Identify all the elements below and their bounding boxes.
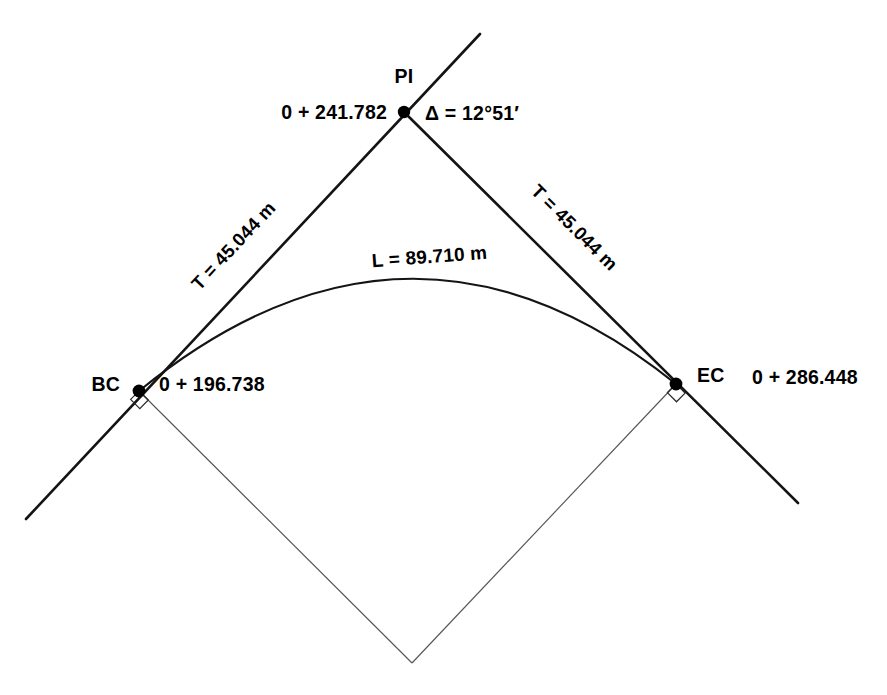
label-tangent-ahead: T = 45.044 m (527, 180, 622, 275)
label-pi-station: 0 + 241.782 (281, 101, 387, 123)
radius-line-bc (139, 391, 412, 663)
horizontal-curve-diagram: PI 0 + 241.782 Δ = 12°51′ BC 0 + 196.738… (0, 0, 887, 695)
label-bc: BC (91, 373, 120, 395)
label-ec: EC (697, 364, 725, 386)
point-marker-pi (398, 106, 410, 118)
label-bc-station: 0 + 196.738 (159, 373, 265, 395)
label-ec-station: 0 + 286.448 (752, 366, 858, 388)
label-tangent-back: T = 45.044 m (187, 197, 280, 294)
label-delta-angle: Δ = 12°51′ (425, 102, 519, 124)
point-marker-ec (670, 378, 683, 391)
back-tangent-line (26, 34, 480, 519)
label-curve-length: L = 89.710 m (371, 242, 488, 271)
curve-diagram-canvas: PI 0 + 241.782 Δ = 12°51′ BC 0 + 196.738… (0, 0, 887, 695)
ahead-tangent-line (404, 112, 798, 503)
radius-line-ec (412, 384, 676, 663)
point-marker-bc (133, 385, 146, 398)
label-pi: PI (395, 65, 414, 87)
